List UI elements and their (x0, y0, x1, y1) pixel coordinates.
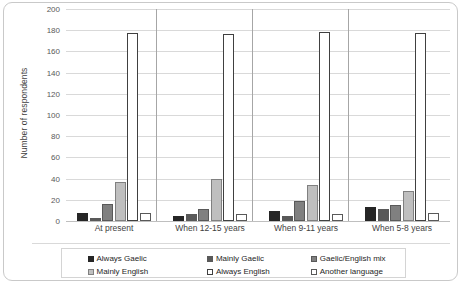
bar (115, 182, 126, 221)
legend-label: Gaelic/English mix (320, 254, 386, 263)
legend-item[interactable]: Another language (311, 267, 405, 276)
legend-swatch-icon (88, 256, 94, 262)
legend-swatch-icon (88, 269, 94, 275)
bar-series-container (66, 9, 450, 221)
bar (294, 201, 305, 221)
bar (365, 207, 376, 221)
bar (390, 205, 401, 221)
legend-item[interactable]: Always English (207, 267, 311, 276)
bar (211, 179, 222, 221)
x-axis-tick-label: When 12-15 years (175, 223, 244, 233)
y-axis-title: Number of respondents (19, 43, 29, 183)
y-axis-tick-labels: 020406080100120140160180200 (32, 9, 60, 223)
bar (378, 209, 389, 221)
y-axis-tick-label: 180 (47, 26, 60, 35)
legend-swatch-icon (207, 269, 213, 275)
y-axis-tick-label: 40 (51, 174, 60, 183)
legend-swatch-icon (311, 256, 317, 262)
axis-ruler (32, 243, 450, 244)
bar (236, 214, 247, 221)
chart-plot-area: Number of respondents 020406080100120140… (4, 3, 459, 282)
bar (319, 32, 330, 221)
bar (102, 204, 113, 221)
legend-label: Always Gaelic (97, 254, 147, 263)
bar (186, 214, 197, 221)
x-axis-tick-label: At present (95, 223, 134, 233)
bar (428, 213, 439, 221)
y-axis-tick-label: 20 (51, 195, 60, 204)
bar (77, 213, 88, 221)
chart-frame: Number of respondents 020406080100120140… (3, 2, 458, 281)
y-axis-tick-label: 60 (51, 153, 60, 162)
bar-group (77, 9, 151, 221)
y-axis-tick-label: 140 (47, 68, 60, 77)
legend-row: Always GaelicMainly GaelicGaelic/English… (62, 252, 405, 265)
group-separator (252, 9, 253, 221)
y-axis-tick-label: 0 (56, 217, 60, 226)
y-axis-tick-label: 100 (47, 111, 60, 120)
bar (127, 33, 138, 221)
bar (140, 213, 151, 221)
x-axis-line (66, 221, 450, 222)
legend-item[interactable]: Mainly Gaelic (207, 254, 311, 263)
legend-row: Mainly EnglishAlways EnglishAnother lang… (62, 265, 405, 278)
chart-legend: Always GaelicMainly GaelicGaelic/English… (61, 248, 406, 278)
x-axis-tick-label: When 5-8 years (372, 223, 432, 233)
legend-label: Mainly English (97, 267, 149, 276)
group-separator (156, 9, 157, 221)
bar (269, 211, 280, 221)
y-axis-tick-label: 200 (47, 5, 60, 14)
x-axis-tick-labels: At presentWhen 12-15 yearsWhen 9-11 year… (66, 223, 450, 239)
y-axis-tick-label: 120 (47, 89, 60, 98)
legend-item[interactable]: Mainly English (62, 267, 207, 276)
legend-label: Always English (216, 267, 270, 276)
bar (307, 185, 318, 221)
legend-swatch-icon (207, 256, 213, 262)
bar (415, 33, 426, 221)
legend-label: Mainly Gaelic (216, 254, 264, 263)
bar (332, 214, 343, 221)
bar (198, 209, 209, 221)
bar-group (365, 9, 439, 221)
legend-item[interactable]: Always Gaelic (62, 254, 207, 263)
y-axis-tick-label: 80 (51, 132, 60, 141)
legend-item[interactable]: Gaelic/English mix (311, 254, 405, 263)
group-separator (348, 9, 349, 221)
bar-group (173, 9, 247, 221)
bar-group (269, 9, 343, 221)
x-axis-tick-label: When 9-11 years (274, 223, 338, 233)
legend-swatch-icon (311, 269, 317, 275)
legend-label: Another language (320, 267, 383, 276)
bar (223, 34, 234, 221)
y-axis-tick-label: 160 (47, 47, 60, 56)
bar (403, 191, 414, 221)
